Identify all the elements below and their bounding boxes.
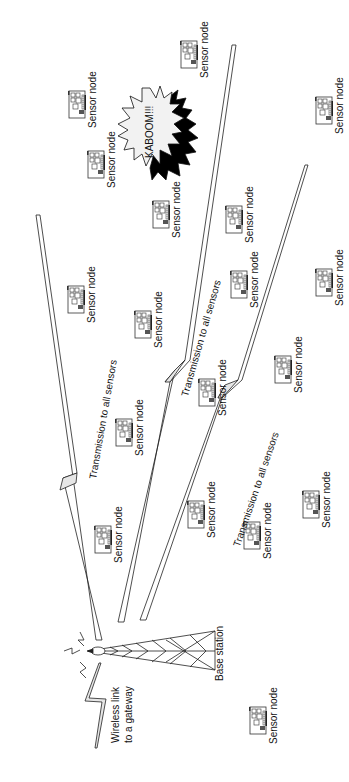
sensor-node-icon bbox=[113, 418, 135, 448]
sensor-node-icon bbox=[178, 40, 200, 70]
sensor-node-icon bbox=[272, 355, 294, 385]
sensor-node-label: Sensor node bbox=[250, 251, 260, 308]
explosion-label: KABOOM!!! bbox=[145, 106, 155, 158]
sensor-node-icon bbox=[185, 500, 207, 530]
sensor-node-icon bbox=[196, 378, 218, 408]
sensor-node-icon bbox=[65, 285, 87, 315]
sensor-node-label: Sensor node bbox=[87, 266, 97, 323]
gateway-label-line2: to a gateway bbox=[124, 686, 134, 743]
sensor-node-icon bbox=[132, 310, 154, 340]
sensor-node-icon bbox=[300, 490, 322, 520]
sensor-node-label: Sensor node bbox=[88, 71, 98, 128]
sensor-node-label: Sensor node bbox=[294, 336, 304, 393]
antenna-signal-icon bbox=[64, 632, 86, 678]
sensor-node-icon bbox=[66, 90, 88, 120]
sensor-node-label: Sensor node bbox=[322, 471, 332, 528]
explosion-burst-icon bbox=[118, 86, 198, 180]
sensor-node-icon bbox=[313, 96, 335, 126]
sensor-node-label: Sensor node bbox=[335, 249, 345, 306]
sensor-node-label: Sensor node bbox=[245, 186, 255, 243]
sensor-node-label: Sensor node bbox=[200, 21, 210, 78]
sensor-node-label: Sensor node bbox=[335, 77, 345, 134]
sensor-node-icon bbox=[228, 270, 250, 300]
sensor-node-label: Sensor node bbox=[269, 687, 279, 744]
sensor-node-label: Sensor node bbox=[107, 131, 117, 188]
sensor-node-label: Sensor node bbox=[114, 506, 124, 563]
sensor-node-icon bbox=[313, 268, 335, 298]
sensor-node-label: Sensor node bbox=[172, 181, 182, 238]
sensor-node-label: Sensor node bbox=[154, 291, 164, 348]
gateway-lightning-icon bbox=[85, 663, 106, 748]
sensor-node-icon bbox=[150, 200, 172, 230]
sensor-node-icon bbox=[247, 706, 269, 736]
sensor-node-label: Sensor node bbox=[207, 481, 217, 538]
gateway-label-line1: Wireless link bbox=[111, 687, 121, 743]
sensor-node-label: Sensor node bbox=[263, 502, 273, 559]
sensor-node-icon bbox=[223, 205, 245, 235]
base-station-label: Base station bbox=[215, 626, 225, 681]
sensor-node-label: Sensor node bbox=[218, 359, 228, 416]
base-station-tower-icon bbox=[87, 631, 215, 670]
sensor-node-icon bbox=[92, 525, 114, 555]
sensor-node-label: Sensor node bbox=[135, 399, 145, 456]
sensor-node-icon bbox=[85, 150, 107, 180]
